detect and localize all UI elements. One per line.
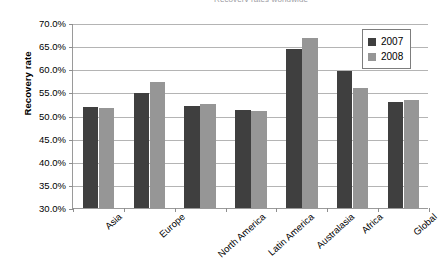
x-axis-label-europe: Europe [157,211,187,240]
bar-2007-latin-america [235,110,251,208]
legend: 20072008 [362,29,411,69]
bar-2008-australasia [302,38,318,208]
bar-group [175,24,226,208]
y-axis-tick-label: 70.0% [20,19,66,29]
bar-group [226,24,277,208]
y-axis-tick-label: 45.0% [20,135,66,145]
x-axis-label-north-america: North America [216,211,268,259]
bar-2007-australasia [286,49,302,208]
y-axis-tick-label: 60.0% [20,65,66,75]
y-axis-tick-label: 55.0% [20,88,66,98]
bar-2008-asia [99,108,115,208]
x-axis-label-asia: Asia [103,211,124,232]
bar-group [124,24,175,208]
bar-group [73,24,124,208]
y-axis-tick-label: 40.0% [20,158,66,168]
y-axis-tick-label: 35.0% [20,181,66,191]
y-axis-tick-label: 50.0% [20,112,66,122]
bar-2007-africa [337,71,353,208]
bar-2008-africa [353,88,369,208]
bar-2008-europe [150,82,166,208]
legend-swatch-icon [368,38,376,46]
bar-group [276,24,327,208]
legend-item-2007: 2007 [368,34,403,49]
x-axis-label-latin-america: Latin America [266,211,316,258]
legend-label: 2008 [381,51,403,62]
y-axis-tick-label: 30.0% [20,204,66,214]
bar-chart: Recovery rates worldwide Recovery rate 7… [0,0,440,277]
bar-2007-europe [134,93,150,208]
legend-label: 2007 [381,36,403,47]
bar-2008-global [404,100,420,208]
bar-2007-north-america [184,106,200,208]
x-axis-label-global: Global [411,211,439,238]
x-axis-tick-labels: AsiaEuropeNorth AmericaLatin AmericaAust… [72,211,428,277]
legend-item-2008: 2008 [368,49,403,64]
bar-2008-latin-america [251,111,267,208]
x-axis-label-africa: Africa [359,211,384,235]
legend-swatch-icon [368,53,376,61]
bar-2007-global [388,102,404,208]
bar-2007-asia [83,107,99,208]
chart-title: Recovery rates worldwide [186,0,336,2]
bar-2008-north-america [200,104,216,208]
y-axis-tick-label: 65.0% [20,42,66,52]
x-axis-label-australasia: Australasia [314,211,356,251]
